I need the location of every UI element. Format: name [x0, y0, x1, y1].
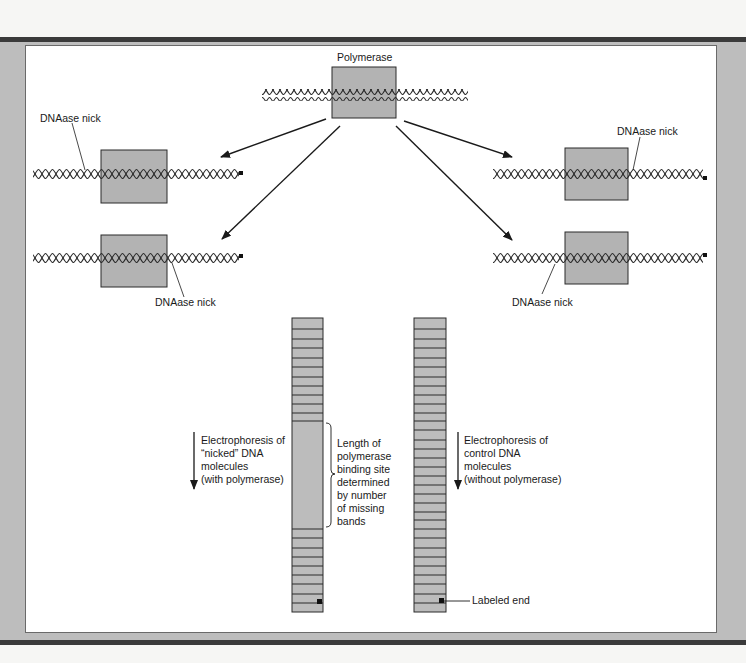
labeled-end-dot	[317, 599, 322, 604]
dna-helix	[33, 252, 239, 264]
nick-label-right-row2: DNAase nick	[512, 296, 573, 309]
right-row1-complex	[493, 137, 707, 200]
labeled-end-marker	[239, 254, 243, 258]
labeled-end-label: Labeled end	[472, 594, 530, 607]
dna-helix	[33, 169, 239, 181]
top-dna-complex	[262, 67, 468, 118]
polymerase-label: Polymerase	[337, 51, 392, 64]
nick-leader-line	[633, 137, 640, 170]
nick-label-right-row1: DNAase nick	[617, 125, 678, 138]
left-lane-caption: Electrophoresis of “nicked” DNA molecule…	[201, 434, 285, 486]
nick-leader-line	[172, 263, 184, 297]
labeled-end-marker	[703, 176, 707, 180]
gel-lane-control	[414, 318, 470, 612]
nick-label-left-row2: DNAase nick	[155, 296, 216, 309]
nick-leader-line	[72, 123, 85, 170]
labeled-end-dot	[439, 598, 444, 603]
right-lane-caption: Electrophoresis of control DNA molecules…	[464, 434, 561, 486]
labeled-end-marker	[703, 253, 707, 257]
left-row2-complex	[33, 235, 243, 297]
arrow-to-left-row2	[222, 126, 340, 239]
arrow-to-right-row2	[396, 126, 512, 240]
dna-helix	[493, 252, 703, 264]
arrow-to-right-row1	[404, 121, 512, 157]
bracket-caption: Length of polymerase binding site determ…	[337, 437, 391, 528]
nick-leader-line	[542, 264, 555, 294]
labeled-end-marker	[239, 171, 243, 175]
arrows	[221, 119, 512, 240]
left-row1-complex	[33, 123, 243, 203]
dna-helix	[493, 169, 703, 181]
nick-label-left-row1: DNAase nick	[40, 112, 101, 125]
arrow-to-left-row1	[221, 119, 326, 157]
gel-lane-nicked	[292, 318, 323, 612]
missing-bands-bracket	[326, 423, 335, 527]
right-row2-complex	[493, 232, 707, 294]
dna-helix	[262, 89, 468, 101]
